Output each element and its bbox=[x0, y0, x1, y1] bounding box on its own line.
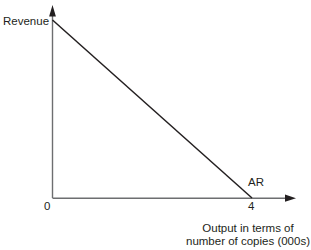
arrow-right-icon bbox=[285, 195, 296, 202]
y-axis-label: Revenue bbox=[3, 15, 49, 28]
ar-curve-annotation: AR bbox=[248, 176, 264, 189]
origin-label: 0 bbox=[44, 200, 50, 213]
arrow-up-icon bbox=[49, 5, 56, 17]
x-axis-caption-line-2: number of copies (000s) bbox=[185, 235, 311, 248]
x-axis-tick-label-4: 4 bbox=[248, 200, 254, 213]
ar-revenue-line bbox=[53, 20, 253, 198]
x-axis-caption: Output in terms of number of copies (000… bbox=[185, 222, 311, 248]
x-axis-caption-line-1: Output in terms of bbox=[185, 222, 311, 235]
revenue-chart: Revenue 0 4 AR Output in terms of number… bbox=[0, 0, 311, 250]
